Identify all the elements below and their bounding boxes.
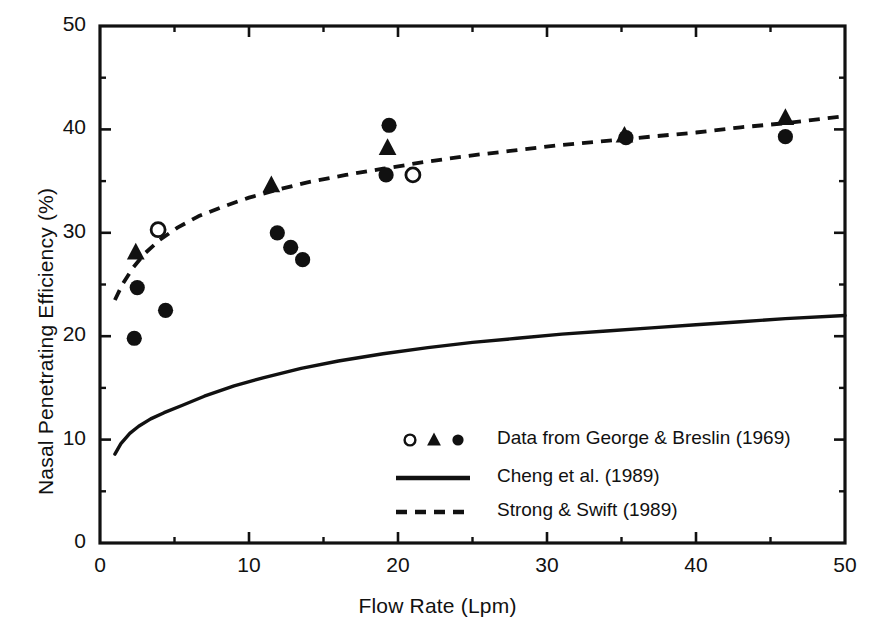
y-tick-label: 50 (38, 12, 86, 36)
x-tick-label: 10 (229, 553, 269, 577)
x-tick-label: 0 (80, 553, 120, 577)
y-tick-label: 20 (38, 322, 86, 346)
plot-canvas (0, 0, 875, 636)
legend-label-strong-swift: Strong & Swift (1989) (497, 499, 678, 521)
series-points-george-breslin (127, 108, 795, 346)
x-tick-label: 20 (378, 553, 418, 577)
y-tick-label: 30 (38, 219, 86, 243)
plot-frame (100, 26, 845, 543)
series-line-strong-swift (115, 116, 845, 300)
x-tick-label: 50 (825, 553, 865, 577)
legend-markers (396, 432, 470, 512)
legend-label-cheng: Cheng et al. (1989) (497, 465, 660, 487)
x-tick-label: 30 (527, 553, 567, 577)
y-tick-label: 40 (38, 115, 86, 139)
legend-label-george-breslin: Data from George & Breslin (1969) (497, 427, 791, 449)
chart-figure: Flow Rate (Lpm) Nasal Penetrating Effici… (0, 0, 875, 636)
x-axis-title: Flow Rate (Lpm) (0, 594, 875, 618)
x-tick-label: 40 (676, 553, 716, 577)
axis-ticks (100, 26, 845, 543)
y-tick-label: 0 (38, 529, 86, 553)
y-tick-label: 10 (38, 426, 86, 450)
